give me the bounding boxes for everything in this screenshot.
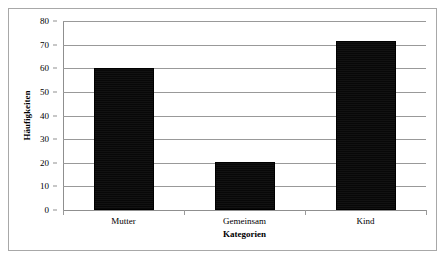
y-axis-tick-label: 60 <box>40 64 49 73</box>
bar <box>215 162 275 210</box>
x-axis-line <box>63 210 426 211</box>
x-axis-title: Kategorien <box>63 229 426 240</box>
chart-frame: 80706050403020100 MutterGemeinsamKind Ka… <box>8 8 437 251</box>
x-axis-category-label: Mutter <box>111 216 136 227</box>
x-axis-tick-mark <box>426 210 427 215</box>
x-axis-tick-mark <box>184 210 185 215</box>
y-axis-tick-mark <box>53 44 57 45</box>
y-axis-tick-label: 50 <box>40 87 49 96</box>
y-axis-tick-label: 20 <box>40 158 49 167</box>
y-axis-tick-mark <box>53 139 57 140</box>
y-axis-tick-mark <box>53 210 57 211</box>
bar <box>94 68 154 210</box>
y-axis-tick-labels: 80706050403020100 <box>31 21 57 210</box>
y-axis-tick-label: 70 <box>40 40 49 49</box>
x-axis-category-label: Kind <box>357 216 375 227</box>
y-axis-tick-mark <box>53 162 57 163</box>
y-axis-tick-mark <box>53 186 57 187</box>
y-axis-tick-label: 40 <box>40 111 49 120</box>
y-axis-tick-label: 30 <box>40 135 49 144</box>
y-axis-tick-label: 0 <box>45 206 50 215</box>
x-axis-category-label: Gemeinsam <box>223 216 266 227</box>
gridline <box>63 21 426 22</box>
y-axis-tick-mark <box>53 91 57 92</box>
y-axis-tick-label: 10 <box>40 182 49 191</box>
y-axis-tick-mark <box>53 115 57 116</box>
bar <box>336 41 396 210</box>
y-axis-tick-mark <box>53 21 57 22</box>
x-axis-tick-mark <box>305 210 306 215</box>
plot-area <box>63 21 426 210</box>
y-axis-title: Häufigkeiten <box>20 21 34 210</box>
x-axis-tick-mark <box>63 210 64 215</box>
y-axis-tick-label: 80 <box>40 17 49 26</box>
y-axis-tick-mark <box>53 68 57 69</box>
